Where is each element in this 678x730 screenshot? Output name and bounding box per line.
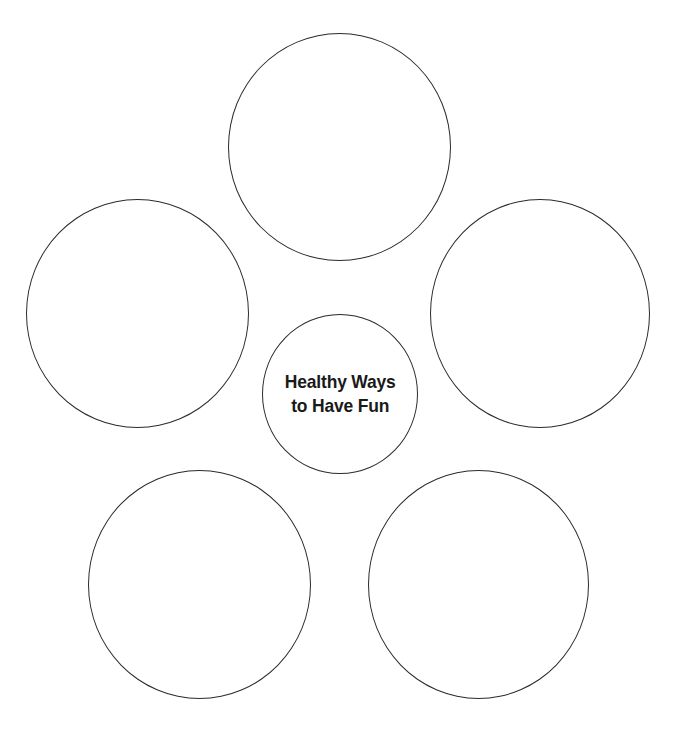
- bubble-map-diagram: Healthy Ways to Have Fun: [0, 0, 678, 730]
- center-topic-line-1: Healthy Ways: [285, 370, 396, 394]
- center-topic-line-2: to Have Fun: [285, 394, 396, 418]
- outer-bubble-bottom-right[interactable]: [368, 470, 589, 699]
- center-topic: Healthy Ways to Have Fun: [285, 370, 396, 418]
- outer-bubble-top[interactable]: [228, 33, 451, 261]
- center-bubble: Healthy Ways to Have Fun: [262, 314, 418, 474]
- outer-bubble-right[interactable]: [430, 199, 650, 428]
- outer-bubble-left[interactable]: [26, 199, 249, 428]
- outer-bubble-bottom-left[interactable]: [88, 470, 311, 699]
